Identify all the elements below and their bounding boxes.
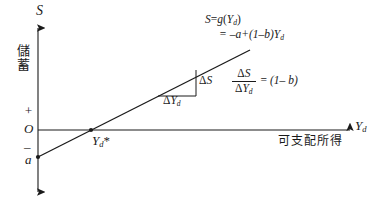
x-axis-symbol-subscript: d — [362, 124, 366, 134]
y-axis-positive-sign: + — [24, 104, 33, 117]
slope-fraction: ΔS ΔYd — [232, 68, 256, 94]
y-intercept-point — [36, 155, 40, 159]
run-variable-subscript: d — [177, 99, 181, 108]
y-intercept-label-a: a — [25, 153, 32, 166]
equation-line-2: = –a+(1–b)Yd — [219, 29, 284, 41]
x-axis-symbol-label: Yd — [355, 119, 367, 132]
y-axis-symbol-label: S — [36, 4, 43, 18]
denominator-variable-subscript: d — [249, 86, 253, 95]
slope-value: (1– b) — [270, 74, 298, 86]
equation-var-subscript: d — [280, 32, 284, 41]
equation-line-1: S=g(Yd) — [205, 13, 241, 25]
equation-expanded-form: = –a+(1–b) — [219, 28, 274, 40]
saving-function-line — [38, 50, 250, 157]
origin-label: O — [24, 122, 33, 135]
delta-symbol-numerator: Δ — [237, 67, 244, 79]
numerator-variable: S — [245, 67, 251, 79]
saving-function-figure: S 儲蓄 Yd 可支配所得 + O – a Yd* S=g(Yd) = –a+(… — [0, 0, 381, 206]
equation-paren-close: ) — [237, 13, 241, 25]
x-axis-caption-disposable-income: 可支配所得 — [278, 135, 343, 147]
slope-run-label: ΔYd — [163, 95, 181, 107]
x-intercept-point — [89, 128, 93, 132]
x-intercept-label: Yd* — [92, 134, 110, 147]
slope-rise-label: ΔS — [199, 75, 212, 87]
slope-fraction-numerator: ΔS — [234, 68, 253, 81]
y-axis-caption-savings: 儲蓄 — [16, 44, 29, 72]
figure-canvas — [0, 0, 381, 206]
slope-formula: ΔS ΔYd = (1– b) — [232, 68, 298, 94]
slope-fraction-denominator: ΔYd — [232, 82, 256, 95]
rise-variable: S — [206, 74, 212, 86]
slope-equals-value: = (1– b) — [261, 75, 298, 87]
slope-equals-sign: = — [261, 74, 268, 86]
curve-equation-label: S=g(Yd) = –a+(1–b)Yd — [205, 14, 284, 40]
x-intercept-star: * — [104, 133, 111, 148]
